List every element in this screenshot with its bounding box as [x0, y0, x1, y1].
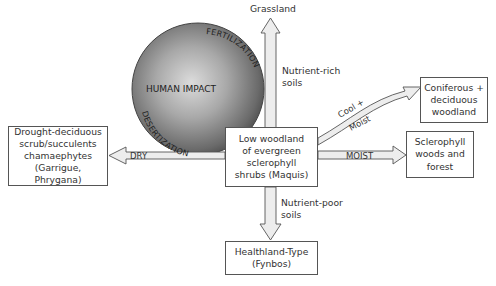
- sclerophyll-line-3: forest: [415, 161, 465, 173]
- coniferous-line-3: woodland: [424, 106, 484, 118]
- nutrient-poor-label: Nutrient-poor soils: [281, 197, 343, 221]
- center-line-2: of evergreen: [235, 145, 308, 157]
- left-box-garrigue: Drought-deciduous scrub/succulents chama…: [8, 126, 108, 186]
- arrow-down-nutrient-poor: [260, 187, 281, 240]
- coniferous-line-2: deciduous: [424, 94, 484, 106]
- dry-label: DRY: [130, 151, 148, 161]
- nutrient-rich-line-1: Nutrient-rich: [282, 65, 340, 77]
- nutrient-poor-line-2: soils: [281, 209, 343, 221]
- center-line-4: shrubs (Maquis): [235, 169, 308, 181]
- right-upper-box-coniferous: Coniferous + deciduous woodland: [420, 77, 488, 123]
- nutrient-rich-label: Nutrient-rich soils: [282, 65, 340, 89]
- nutrient-poor-line-1: Nutrient-poor: [281, 197, 343, 209]
- vegetation-diagram: FERTILIZATION DESERTIZATION Cool + Moist…: [0, 0, 496, 286]
- fynbos-line-1: Healthland-Type: [235, 246, 309, 258]
- right-lower-box-sclerophyll: Sclerophyll woods and forest: [406, 131, 474, 178]
- left-line-1: Drought-deciduous: [11, 126, 105, 138]
- center-line-3: sclerophyll: [235, 157, 308, 169]
- human-impact-label: HUMAN IMPACT: [146, 83, 216, 95]
- sclerophyll-line-2: woods and: [415, 148, 465, 160]
- left-line-2: scrub/succulents: [11, 138, 105, 150]
- center-box-maquis: Low woodland of evergreen sclerophyll sh…: [225, 127, 318, 187]
- nutrient-rich-line-2: soils: [282, 77, 340, 89]
- bottom-box-fynbos: Healthland-Type (Fynbos): [225, 241, 318, 275]
- coniferous-line-1: Coniferous +: [424, 82, 484, 94]
- arrow-up-nutrient-rich: [261, 18, 280, 128]
- grassland-label: Grassland: [250, 3, 296, 15]
- fynbos-line-2: (Fynbos): [235, 258, 309, 270]
- left-line-4: (Garrigue, Phrygana): [11, 162, 105, 186]
- left-line-3: chamaephytes: [11, 150, 105, 162]
- moist-label: MOIST: [346, 151, 374, 161]
- center-line-1: Low woodland: [235, 133, 308, 145]
- sclerophyll-line-1: Sclerophyll: [415, 136, 465, 148]
